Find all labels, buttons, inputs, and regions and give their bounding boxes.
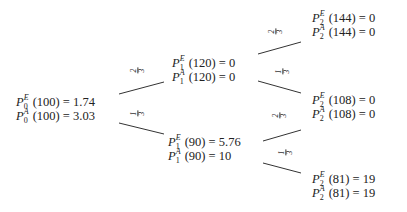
underlying-price: (108) xyxy=(329,107,356,121)
edge-down-dd xyxy=(263,163,301,173)
underlying-price: (90) xyxy=(185,135,206,149)
american-value: = 3.03 xyxy=(63,109,95,123)
node-dd: PE2(81) = 19 PA2(81) = 19 xyxy=(312,172,375,200)
edge-up-uu xyxy=(258,42,301,54)
american-value: = 0 xyxy=(359,25,375,39)
price-symbol: P xyxy=(168,149,176,163)
indices: A1 xyxy=(176,150,185,164)
node-down: PE1(90) = 5.76 PA1(90) = 10 xyxy=(168,135,241,163)
european-value: = 19 xyxy=(353,172,376,186)
underlying-price: (81) xyxy=(329,186,350,200)
price-symbol: P xyxy=(312,11,320,25)
style-label: A xyxy=(320,185,325,193)
american-value: = 19 xyxy=(353,186,376,200)
indices: A2 xyxy=(320,108,329,122)
step-index: 1 xyxy=(176,157,180,165)
underlying-price: (100) xyxy=(33,95,60,109)
style-label: E xyxy=(176,134,181,142)
european-value: = 1.74 xyxy=(63,95,95,109)
price-symbol: P xyxy=(312,25,320,39)
step-index: 2 xyxy=(320,33,324,41)
prob-denominator: 3 xyxy=(286,150,293,156)
style-label: E xyxy=(320,10,325,18)
indices: A1 xyxy=(180,71,189,85)
prob-root-down: 1 3 xyxy=(130,111,145,117)
price-symbol: P xyxy=(172,70,180,84)
prob-up-ud: 1 3 xyxy=(275,69,290,75)
node-ud-american: PA2(108) = 0 xyxy=(312,107,375,121)
node-dd-american: PA2(81) = 19 xyxy=(312,186,375,200)
node-ud: PE2(108) = 0 PA2(108) = 0 xyxy=(312,93,375,121)
prob-denominator: 3 xyxy=(283,69,290,75)
step-index: 2 xyxy=(320,194,324,202)
european-value: = 0 xyxy=(359,93,375,107)
style-label: A xyxy=(180,69,185,77)
indices: A2 xyxy=(320,187,329,201)
edge-root-up xyxy=(119,82,164,94)
underlying-price: (144) xyxy=(329,25,356,39)
european-value: = 0 xyxy=(219,56,235,70)
underlying-price: (81) xyxy=(329,172,350,186)
price-symbol: P xyxy=(16,109,24,123)
prob-down-ud: 2 3 xyxy=(272,113,287,119)
european-value: = 5.76 xyxy=(209,135,241,149)
underlying-price: (144) xyxy=(329,11,356,25)
prob-down-dd: 1 3 xyxy=(278,150,293,156)
style-label: A xyxy=(24,108,29,116)
style-label: E xyxy=(180,55,185,63)
node-root: PE0(100) = 1.74 PA0(100) = 3.03 xyxy=(16,95,95,123)
underlying-price: (120) xyxy=(189,70,216,84)
style-label: E xyxy=(320,171,325,179)
node-up: PE1(120) = 0 PA1(120) = 0 xyxy=(172,56,235,84)
price-symbol: P xyxy=(16,95,24,109)
prob-denominator: 3 xyxy=(138,111,145,117)
step-index: 0 xyxy=(24,117,28,125)
underlying-price: (108) xyxy=(329,93,356,107)
price-symbol: P xyxy=(172,56,180,70)
style-label: E xyxy=(24,94,29,102)
style-label: A xyxy=(176,148,181,156)
american-value: = 10 xyxy=(209,149,232,163)
edge-root-down xyxy=(119,123,164,134)
price-symbol: P xyxy=(312,186,320,200)
price-symbol: P xyxy=(168,135,176,149)
node-root-american: PA0(100) = 3.03 xyxy=(16,109,95,123)
step-index: 2 xyxy=(320,115,324,123)
prob-root-up: 2 3 xyxy=(130,68,145,74)
prob-up-uu: 2 3 xyxy=(268,29,283,35)
node-uu: PE2(144) = 0 PA2(144) = 0 xyxy=(312,11,375,39)
underlying-price: (100) xyxy=(33,109,60,123)
style-label: E xyxy=(320,92,325,100)
price-symbol: P xyxy=(312,93,320,107)
node-up-american: PA1(120) = 0 xyxy=(172,70,235,84)
step-index: 1 xyxy=(180,78,184,86)
indices: A0 xyxy=(24,110,33,124)
node-down-american: PA1(90) = 10 xyxy=(168,149,241,163)
edge-down-ud xyxy=(263,130,301,141)
american-value: = 0 xyxy=(359,107,375,121)
style-label: A xyxy=(320,106,325,114)
underlying-price: (90) xyxy=(185,149,206,163)
prob-denominator: 3 xyxy=(138,68,145,74)
price-symbol: P xyxy=(312,172,320,186)
price-symbol: P xyxy=(312,107,320,121)
edge-up-ud xyxy=(258,81,301,93)
style-label: A xyxy=(320,24,325,32)
prob-denominator: 3 xyxy=(280,113,287,119)
american-value: = 0 xyxy=(219,70,235,84)
node-uu-american: PA2(144) = 0 xyxy=(312,25,375,39)
european-value: = 0 xyxy=(359,11,375,25)
prob-denominator: 3 xyxy=(276,29,283,35)
underlying-price: (120) xyxy=(189,56,216,70)
indices: A2 xyxy=(320,26,329,40)
